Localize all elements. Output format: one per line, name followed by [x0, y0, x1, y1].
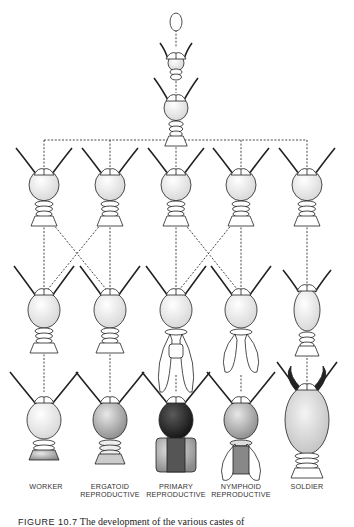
insect-figures [10, 13, 337, 480]
head [224, 401, 258, 439]
antenna [16, 148, 36, 174]
antenna [52, 372, 78, 404]
egg [170, 13, 182, 31]
insect-ergatoid [76, 372, 144, 464]
antenna [249, 148, 269, 174]
caste-label-line1: SOLDIER [272, 483, 342, 491]
abdomen [165, 136, 187, 146]
head [28, 292, 60, 328]
antenna [160, 43, 168, 59]
insect-r2c3 [146, 266, 206, 392]
abdomen [29, 450, 59, 460]
wing-pad [245, 334, 259, 372]
antenna [315, 270, 331, 292]
head [94, 292, 126, 328]
head [159, 401, 193, 439]
head [27, 401, 61, 439]
abdomen [233, 446, 249, 474]
wing-pad [158, 334, 172, 392]
caste-label: WORKER [11, 483, 81, 491]
caste-label-line2: REPRODUCTIVE [141, 491, 211, 499]
wing-pad [223, 334, 237, 372]
caste-label: NYMPHOIDREPRODUCTIVE [206, 483, 276, 499]
antenna [118, 372, 144, 404]
antenna [279, 148, 299, 174]
caption-label: FIGURE 10.7 [18, 517, 78, 527]
antenna [82, 148, 102, 174]
head [93, 401, 127, 439]
wing-pad [180, 334, 194, 392]
head [285, 386, 329, 454]
antenna [52, 148, 72, 174]
abdomen [228, 216, 254, 226]
caste-label: PRIMARYREPRODUCTIVE [141, 483, 211, 499]
abdomen [97, 216, 123, 226]
antenna [148, 148, 168, 174]
caste-label: ERGATOIDREPRODUCTIVE [75, 483, 145, 499]
antenna [80, 266, 102, 296]
thorax-segment [230, 329, 252, 335]
abdomen [95, 454, 125, 464]
antenna [207, 372, 233, 404]
antenna [154, 78, 168, 100]
abdomen [31, 216, 57, 226]
abdomen [30, 343, 58, 353]
abdomen [291, 468, 323, 478]
abdomen [294, 216, 320, 226]
caste-label-line1: WORKER [11, 483, 81, 491]
caption-text: The development of the various castes of [80, 516, 244, 527]
antenna [283, 270, 299, 292]
insect-egg [170, 13, 182, 31]
antenna [184, 148, 204, 174]
abdomen [295, 346, 319, 356]
head [225, 292, 257, 328]
antenna [249, 372, 275, 404]
antenna [146, 266, 168, 296]
caste-label: SOLDIER [272, 483, 342, 491]
antenna [76, 372, 102, 404]
caste-label-line2: REPRODUCTIVE [75, 491, 145, 499]
head [294, 289, 320, 331]
head [160, 292, 192, 328]
insect-nymphoid [207, 372, 275, 480]
thorax-segment [171, 74, 182, 80]
insect-soldier [277, 362, 337, 478]
antenna [14, 266, 36, 296]
abdomen [167, 438, 185, 472]
insect-larva-2 [154, 78, 198, 146]
antenna [184, 43, 192, 59]
antenna [213, 148, 233, 174]
thorax-segment [165, 329, 187, 335]
insect-larva-1 [160, 43, 192, 80]
antenna [118, 148, 138, 174]
caste-label-line2: REPRODUCTIVE [206, 491, 276, 499]
antenna [249, 266, 271, 296]
antenna [315, 148, 335, 174]
thorax-segment [230, 440, 252, 446]
antenna [10, 372, 36, 404]
figure-caption: FIGURE 10.7 The development of the vario… [18, 516, 244, 527]
abdomen [96, 343, 124, 353]
antenna [52, 266, 74, 296]
antenna [118, 266, 140, 296]
antenna [184, 78, 198, 100]
abdomen [169, 344, 183, 358]
abdomen [163, 216, 189, 226]
